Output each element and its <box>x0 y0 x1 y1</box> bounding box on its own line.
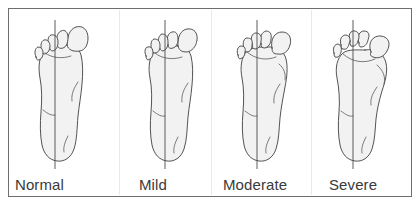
foot-panel-mild <box>125 18 223 170</box>
caption-mild: Mild <box>139 176 167 194</box>
foot-panel-normal <box>15 18 113 170</box>
foot-panel-moderate <box>217 18 315 170</box>
foot-panel-severe <box>313 18 411 170</box>
panel-divider-1 <box>119 10 120 195</box>
foot-illustration-moderate <box>217 18 315 170</box>
caption-moderate: Moderate <box>223 176 287 194</box>
figure-frame: Normal Mild Moderate Severe <box>8 8 412 197</box>
bunion-severity-figure: Normal Mild Moderate Severe <box>0 0 420 207</box>
foot-illustration-severe <box>313 18 411 170</box>
caption-normal: Normal <box>15 176 64 194</box>
caption-severe: Severe <box>329 176 377 194</box>
foot-illustration-normal <box>15 18 113 170</box>
foot-illustration-mild <box>125 18 223 170</box>
